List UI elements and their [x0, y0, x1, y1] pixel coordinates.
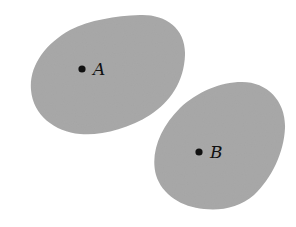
region-a-shape — [31, 15, 185, 134]
diagram-canvas: A B — [0, 0, 296, 227]
diagram-figure: A B — [0, 0, 296, 227]
point-a-marker — [78, 65, 85, 72]
region-a: A — [31, 15, 185, 134]
point-b-marker — [195, 148, 202, 155]
point-b-label: B — [209, 142, 223, 162]
point-a-label: A — [91, 59, 105, 79]
region-b: B — [154, 82, 285, 209]
